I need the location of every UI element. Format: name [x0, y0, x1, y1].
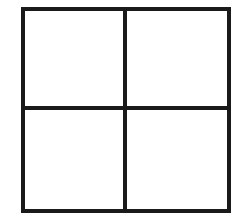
- grid-cell-bottom-left: [25, 110, 123, 209]
- grid-cell-top-right: [127, 11, 227, 106]
- grid-cell-top-left: [25, 11, 123, 106]
- grid-cell-bottom-right: [127, 110, 227, 209]
- two-by-two-grid: [21, 7, 231, 213]
